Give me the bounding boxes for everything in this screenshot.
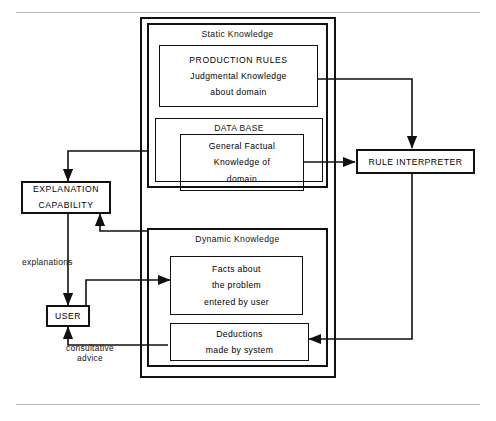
explanation-capability-line-2: CAPABILITY	[38, 198, 93, 213]
page-rule-bottom	[16, 404, 480, 405]
box-deductions-content: Deductions made by system	[171, 324, 308, 360]
box-explanation-capability[interactable]: EXPLANATION CAPABILITY	[21, 181, 111, 214]
facts-line-1: Facts about	[212, 261, 261, 277]
box-production-rules[interactable]: PRODUCTION RULES Judgmental Knowledge ab…	[159, 45, 318, 107]
edge-label-consultative-advice: consultative advice	[52, 344, 128, 363]
edge-static-knowledge-to-explanation	[68, 151, 147, 181]
production-rules-line-3: about domain	[210, 84, 266, 100]
facts-line-3: entered by user	[204, 294, 269, 310]
deductions-line-1: Deductions	[216, 326, 263, 342]
edge-label-explanations: explanations	[22, 258, 73, 268]
expert-system-diagram: Static Knowledge PRODUCTION RULES Judgme…	[0, 0, 496, 421]
box-rule-interpreter-label: RULE INTERPRETER	[369, 157, 463, 167]
data-base-content-lines: General Factual Knowledge of domain	[181, 135, 303, 190]
box-facts[interactable]: Facts about the problem entered by user	[170, 256, 303, 315]
production-rules-line-1: PRODUCTION RULES	[189, 52, 287, 68]
box-rule-interpreter[interactable]: RULE INTERPRETER	[356, 149, 475, 174]
box-user-label: USER	[55, 311, 81, 321]
data-base-line-2: Knowledge of	[214, 154, 270, 170]
edge-label-consultative-advice-line-2: advice	[52, 354, 128, 364]
box-production-rules-content: PRODUCTION RULES Judgmental Knowledge ab…	[160, 46, 317, 106]
data-base-line-3: domain	[227, 171, 257, 187]
data-base-line-1: General Factual	[209, 138, 275, 154]
explanation-capability-line-1: EXPLANATION	[33, 182, 99, 197]
box-user[interactable]: USER	[46, 305, 90, 327]
production-rules-line-2: Judgmental Knowledge	[190, 68, 286, 84]
deductions-line-2: made by system	[206, 342, 273, 358]
facts-line-2: the problem	[212, 277, 261, 293]
box-facts-content: Facts about the problem entered by user	[171, 257, 302, 314]
box-deductions[interactable]: Deductions made by system	[170, 323, 309, 361]
group-static-knowledge-title: Static Knowledge	[149, 30, 326, 39]
box-data-base-content[interactable]: General Factual Knowledge of domain	[180, 134, 304, 191]
page-rule-top	[16, 12, 480, 13]
box-data-base-title: DATA BASE	[156, 124, 322, 133]
group-dynamic-knowledge-title: Dynamic Knowledge	[149, 235, 326, 244]
